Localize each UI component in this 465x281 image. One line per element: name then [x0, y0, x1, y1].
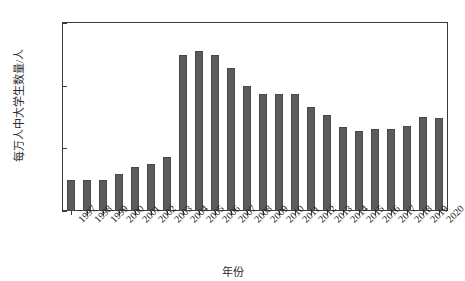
bars-container — [63, 23, 447, 211]
bar-2010 — [275, 94, 282, 211]
bar-2005 — [195, 51, 202, 211]
bar-2006 — [211, 55, 218, 211]
y-axis-title: 每万人中大学生数量/人 — [9, 0, 27, 211]
bar-2013 — [323, 115, 330, 211]
x-tick-mark-1997 — [71, 211, 72, 215]
bar-2012 — [307, 107, 314, 211]
bar-chart: 每万人中大学生数量/人 0200400600 19971998199920002… — [0, 0, 465, 281]
bar-2016 — [371, 129, 378, 211]
bar-2004 — [179, 55, 186, 211]
x-axis-title: 年份 — [0, 263, 465, 279]
bar-2014 — [339, 127, 346, 211]
y-tick-mark-0 — [62, 211, 67, 212]
bar-2011 — [291, 94, 298, 211]
bar-2009 — [259, 94, 266, 212]
bar-2018 — [403, 126, 410, 211]
bar-2015 — [355, 131, 362, 211]
bar-2007 — [227, 68, 234, 212]
bar-2008 — [243, 86, 250, 211]
bar-1997 — [67, 180, 74, 211]
bar-2017 — [387, 129, 394, 211]
bar-2020 — [435, 118, 442, 211]
bar-2019 — [419, 117, 426, 211]
